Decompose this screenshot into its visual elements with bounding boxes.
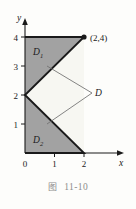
x-axis-arrow-icon bbox=[117, 150, 124, 156]
figure-container: 4 3 2 1 0 1 2 y x (2,4) D 1 D 2 D 图11-10 bbox=[0, 0, 136, 209]
x-tick-label-1: 1 bbox=[52, 159, 57, 169]
y-axis-label: y bbox=[16, 13, 22, 23]
y-tick-label-1: 1 bbox=[14, 120, 19, 130]
y-tick-label-2: 2 bbox=[14, 91, 19, 101]
x-tick-label-2: 2 bbox=[82, 159, 87, 169]
x-tick-label-0: 0 bbox=[23, 159, 28, 169]
figure-plot: 4 3 2 1 0 1 2 y x (2,4) D 1 D 2 D bbox=[0, 0, 136, 170]
point-2-4-marker bbox=[81, 34, 86, 39]
region-d-label: D bbox=[94, 88, 102, 98]
region-d2-letter: D bbox=[32, 135, 40, 145]
caption-number: 11-10 bbox=[64, 182, 88, 192]
y-tick-label-3: 3 bbox=[14, 62, 19, 72]
figure-caption: 图11-10 bbox=[0, 180, 136, 193]
point-2-4-label: (2,4) bbox=[90, 33, 107, 43]
y-tick-label-4: 4 bbox=[14, 33, 19, 43]
x-axis-label: x bbox=[118, 158, 124, 168]
y-axis-arrow-icon bbox=[22, 18, 28, 25]
region-d1-subscript: 1 bbox=[40, 52, 43, 59]
caption-prefix: 图 bbox=[48, 182, 57, 192]
y-axis-ticks bbox=[21, 37, 25, 124]
region-d1-letter: D bbox=[32, 47, 40, 57]
